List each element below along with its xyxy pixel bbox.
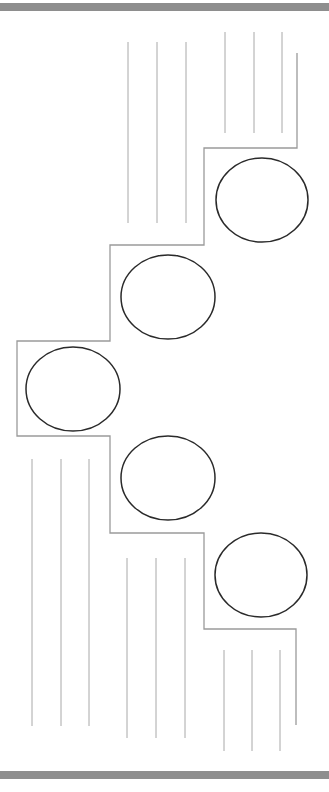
vertical-line-groups	[32, 32, 282, 751]
stair-diagram	[0, 0, 329, 792]
circle-node-5	[215, 533, 307, 617]
circle-node-2	[121, 255, 215, 339]
circle-node-3	[26, 347, 120, 431]
circle-node-1	[216, 158, 308, 242]
circle-node-4	[121, 436, 215, 520]
circle-nodes	[26, 158, 308, 617]
